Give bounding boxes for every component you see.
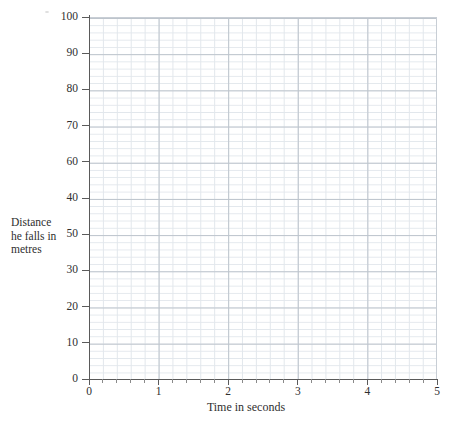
x-axis-minor-tick [269, 379, 270, 383]
y-axis-tick [82, 270, 89, 271]
x-axis-minor-tick [144, 379, 145, 383]
x-axis-minor-tick [242, 379, 243, 383]
x-axis-tick-label: 1 [147, 385, 171, 397]
y-axis-tick [82, 17, 89, 18]
x-axis-tick-label: 4 [355, 385, 379, 397]
x-axis-minor-tick [186, 379, 187, 383]
x-axis-minor-tick [116, 379, 117, 383]
x-axis-tick-label: 5 [425, 385, 449, 397]
x-axis-tick-label: 0 [77, 385, 101, 397]
x-axis-minor-tick [311, 379, 312, 383]
y-axis-tick-label: 10 [52, 337, 78, 349]
y-axis-tick [82, 125, 89, 126]
y-axis-line [89, 15, 90, 381]
y-axis-tick [82, 89, 89, 90]
x-axis-title: Time in seconds [0, 400, 452, 414]
x-axis-minor-tick [423, 379, 424, 383]
y-axis-tick [82, 198, 89, 199]
y-axis-tick-label: 30 [52, 264, 78, 276]
x-axis-tick-label: 2 [216, 385, 240, 397]
scan-artifact-speck [45, 11, 49, 13]
y-axis-tick [82, 161, 89, 162]
x-axis-line [88, 379, 438, 380]
x-axis-minor-tick [214, 379, 215, 383]
x-axis-minor-tick [381, 379, 382, 383]
x-axis-minor-tick [102, 379, 103, 383]
y-axis-tick-label: 70 [52, 120, 78, 132]
y-axis-tick [82, 306, 89, 307]
y-axis-tick [82, 234, 89, 235]
y-axis-tick-label: 20 [52, 301, 78, 313]
y-axis-tick-label: 50 [52, 228, 78, 240]
y-axis-tick [82, 342, 89, 343]
x-axis-minor-tick [395, 379, 396, 383]
x-axis-minor-tick [172, 379, 173, 383]
x-axis-minor-tick [409, 379, 410, 383]
y-axis-tick-label: 90 [52, 47, 78, 59]
y-axis-tick-label: 100 [52, 11, 78, 23]
y-axis-tick-label: 80 [52, 83, 78, 95]
y-axis-tick-label: 40 [52, 192, 78, 204]
y-axis-tick-label: 0 [52, 373, 78, 385]
x-axis-minor-tick [256, 379, 257, 383]
x-axis-minor-tick [339, 379, 340, 383]
plot-area-grid[interactable] [89, 17, 437, 379]
x-axis-minor-tick [353, 379, 354, 383]
x-axis-minor-tick [200, 379, 201, 383]
y-axis-tick [82, 53, 89, 54]
y-axis-tick-label: 60 [52, 156, 78, 168]
graph-figure: Distance he falls in metres Time in seco… [0, 0, 452, 422]
y-axis-title-line-3: metres [11, 243, 83, 257]
x-axis-tick-label: 3 [286, 385, 310, 397]
x-axis-minor-tick [283, 379, 284, 383]
x-axis-minor-tick [325, 379, 326, 383]
x-axis-minor-tick [130, 379, 131, 383]
